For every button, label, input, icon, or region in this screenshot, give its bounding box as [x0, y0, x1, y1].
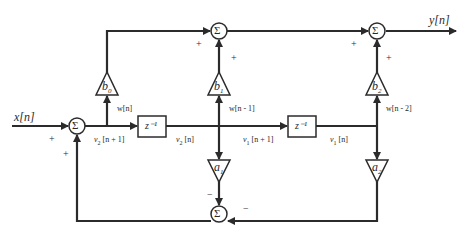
sum-symbol: Σ: [214, 208, 220, 219]
sign-plus: +: [386, 53, 392, 63]
signal-v2-n1: v2 [n + 1]: [94, 136, 124, 146]
coef-b0-label: b0: [102, 80, 112, 95]
input-label: x[n]: [14, 111, 35, 123]
sign-minus: −: [207, 190, 213, 200]
feedback-line: [77, 135, 211, 221]
signal-w-n-2: w[n - 2]: [386, 105, 412, 113]
sum-symbol: Σ: [372, 25, 378, 36]
sign-minus: −: [243, 204, 249, 214]
output-label: y[n]: [429, 14, 450, 26]
coef-a2-label: a2: [372, 161, 382, 176]
delay-label-2: z⁻¹: [295, 121, 307, 131]
signal-v1-n: v1 [n]: [330, 136, 348, 146]
signal-v1-n1: v1 [n + 1]: [243, 136, 273, 146]
a2-to-bottomsum: [228, 181, 377, 221]
coef-a1-label: a1: [214, 161, 224, 176]
block-diagram: [0, 0, 465, 241]
coef-b2-label: b2: [372, 80, 382, 95]
sign-plus: +: [49, 134, 55, 144]
delay-label-1: z⁻¹: [145, 121, 157, 131]
sign-plus: +: [351, 39, 357, 49]
sign-plus: +: [63, 149, 69, 159]
sum-symbol: Σ: [72, 120, 78, 131]
sum-symbol: Σ: [214, 25, 220, 36]
b0-to-topsum1: [107, 31, 210, 73]
signal-w-n: w[n]: [117, 105, 132, 113]
signal-w-n-1: w[n - 1]: [229, 105, 255, 113]
signal-v2-n: v2 [n]: [176, 136, 194, 146]
sign-plus: +: [196, 39, 202, 49]
sign-plus: +: [231, 53, 237, 63]
coef-b1-label: b1: [214, 80, 224, 95]
